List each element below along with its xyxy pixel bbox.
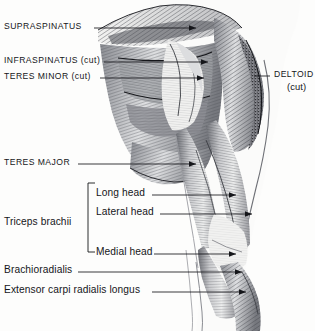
- label-infraspinatus: INFRASPINATUS (cut): [4, 56, 100, 65]
- label-supraspinatus: SUPRASPINATUS: [4, 22, 82, 31]
- label-brachioradialis: Brachioradialis: [4, 265, 72, 276]
- triceps-bracket: [88, 183, 95, 252]
- anatomical-figure: SUPRASPINATUS INFRASPINATUS (cut) TERES …: [0, 0, 315, 331]
- label-teres-major: TERES MAJOR: [4, 158, 70, 167]
- label-long-head: Long head: [96, 188, 145, 199]
- label-medial-head: Medial head: [96, 247, 153, 258]
- label-lateral-head: Lateral head: [96, 207, 154, 218]
- label-deltoid: DELTOID: [274, 70, 314, 79]
- label-extensor-carpi-radialis-longus: Extensor carpi radialis longus: [4, 285, 140, 296]
- label-triceps-brachii: Triceps brachii: [4, 217, 71, 228]
- label-deltoid-cut: (cut): [287, 82, 306, 92]
- label-teres-minor: TERES MINOR (cut): [4, 72, 91, 81]
